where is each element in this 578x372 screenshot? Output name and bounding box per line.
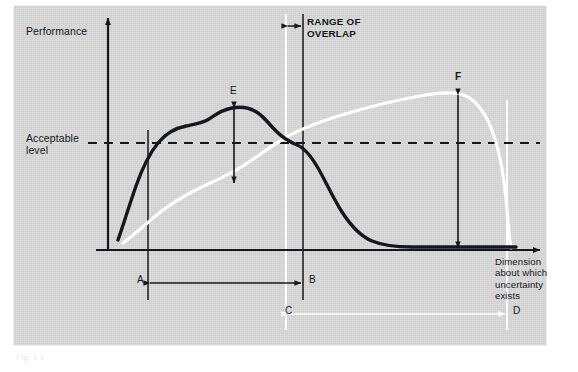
marker-label-e: E [230, 85, 237, 96]
series-design-2-line [123, 93, 511, 248]
figure-page: Performance Acceptable level RANGE OF OV… [0, 0, 578, 372]
x-axis-label: Dimension about which uncertainty exists [495, 256, 547, 301]
marker-label-a: A [137, 274, 144, 285]
acceptable-level-label: Acceptable level [26, 132, 79, 157]
figure-caption: Fig. 1.1 [16, 353, 45, 362]
marker-label-c: C [285, 305, 292, 316]
marker-label-f: F [455, 71, 461, 82]
range-of-overlap-label: RANGE OF OVERLAP [307, 16, 361, 39]
marker-label-b: B [309, 274, 316, 285]
y-axis-label: Performance [26, 25, 87, 37]
series-design-1-line [118, 107, 516, 247]
chart-canvas [0, 0, 578, 372]
marker-label-d: D [513, 305, 520, 316]
